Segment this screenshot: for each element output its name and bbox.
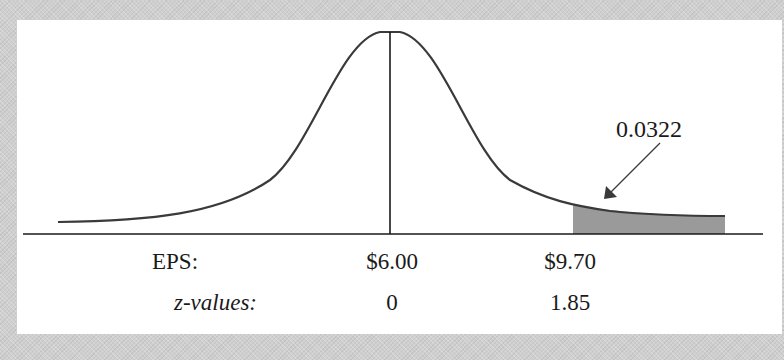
eps-cutoff-label: $9.70 (544, 250, 596, 273)
annotation-arrow-line (610, 143, 660, 193)
z-mean-label: 0 (386, 291, 398, 314)
z-cutoff-label: 1.85 (550, 291, 590, 314)
eps-mean-label: $6.00 (366, 250, 418, 273)
z-row-label: z-values: (174, 291, 257, 314)
area-annotation-label: 0.0322 (616, 117, 682, 141)
eps-row-label: EPS: (152, 250, 198, 273)
